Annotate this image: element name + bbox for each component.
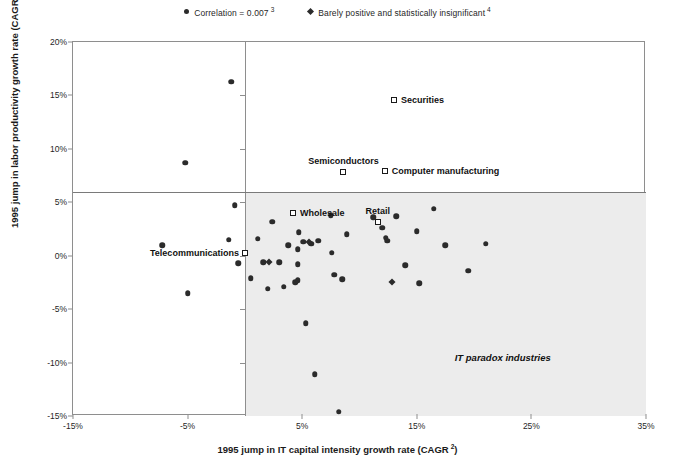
legend-label: Barely positive and statistically insign… — [318, 6, 490, 18]
data-point — [466, 268, 472, 274]
data-point — [248, 275, 254, 281]
data-point — [185, 290, 191, 296]
it-paradox-quadrant-shading — [245, 192, 646, 416]
data-point — [295, 278, 301, 284]
data-point — [384, 238, 390, 244]
x-tick-label: 15% — [408, 421, 425, 431]
data-point — [312, 372, 318, 378]
y-inner-tick-mark — [240, 95, 245, 96]
x-tick-label: 35% — [637, 421, 654, 431]
data-point — [340, 276, 346, 282]
data-point — [416, 281, 422, 287]
zero-y-axis-line — [73, 192, 646, 193]
y-tick-mark — [68, 202, 73, 203]
data-point — [344, 232, 350, 238]
data-point-securities — [391, 97, 397, 103]
data-point-telecommunications — [242, 250, 248, 256]
y-inner-tick-mark — [240, 309, 245, 310]
point-label-semiconductors: Semiconductors — [308, 156, 379, 166]
x-tick-label: 25% — [523, 421, 540, 431]
data-point — [483, 241, 489, 247]
x-tick-mark — [646, 414, 647, 419]
data-point — [336, 409, 342, 415]
x-axis-title: 1995 jump in IT capital intensity growth… — [0, 443, 675, 455]
data-point-computer-manufacturing — [382, 168, 388, 174]
x-tick-label: -5% — [180, 421, 195, 431]
data-point — [443, 242, 449, 248]
legend-footnote-marker: 4 — [487, 6, 491, 13]
y-tick-label: 5% — [55, 197, 67, 207]
x-tick-label: 5% — [296, 421, 308, 431]
y-tick-label: -10% — [47, 358, 67, 368]
data-point — [393, 213, 399, 219]
y-tick-label: -15% — [47, 411, 67, 421]
circle-marker-icon — [184, 9, 189, 14]
y-inner-tick-mark — [240, 149, 245, 150]
data-point — [431, 206, 437, 212]
y-tick-mark — [68, 362, 73, 363]
data-point-retail — [375, 219, 381, 225]
x-tick-mark — [531, 414, 532, 419]
data-point — [295, 262, 301, 268]
x-axis-title-text: 1995 jump in IT capital intensity growth… — [217, 444, 448, 455]
data-point — [183, 160, 189, 166]
data-point — [281, 284, 287, 290]
x-axis-title-tail: ) — [454, 444, 457, 455]
data-point — [277, 259, 283, 265]
legend-footnote-marker: 3 — [271, 6, 275, 13]
data-point-wholesale — [290, 210, 296, 216]
y-tick-mark — [68, 309, 73, 310]
y-axis-title-text: 1995 jump in labor productivity growth r… — [9, 0, 20, 228]
data-point — [403, 263, 409, 269]
y-tick-label: 15% — [50, 90, 67, 100]
data-point — [296, 229, 302, 235]
legend-label: Correlation = 0.0073 — [194, 6, 274, 18]
data-point — [295, 247, 301, 253]
point-label-retail: Retail — [366, 206, 391, 216]
y-tick-mark — [68, 148, 73, 149]
data-point — [303, 320, 309, 326]
point-label-computer-manufacturing: Computer manufacturing — [392, 166, 500, 176]
y-tick-label: 0% — [55, 251, 67, 261]
legend-item-2: Barely positive and statistically insign… — [308, 6, 490, 18]
data-point — [235, 260, 241, 266]
y-tick-mark — [68, 95, 73, 96]
x-tick-mark — [302, 414, 303, 419]
y-inner-tick-mark — [240, 202, 245, 203]
y-tick-label: -5% — [52, 304, 67, 314]
data-point — [380, 225, 386, 231]
x-tick-mark — [416, 414, 417, 419]
x-tick-mark — [73, 414, 74, 419]
plot-area: 20%15%10%5%0%-5%-10%-15% -15%-5%5%15%25%… — [72, 41, 645, 415]
data-point — [228, 79, 234, 85]
y-axis-title: 1995 jump in labor productivity growth r… — [8, 0, 20, 228]
x-tick-mark — [187, 414, 188, 419]
y-inner-tick-mark — [240, 256, 245, 257]
diamond-marker-icon — [307, 8, 314, 15]
point-label-wholesale: Wholesale — [300, 208, 345, 218]
data-point — [329, 250, 335, 256]
data-point — [226, 237, 232, 243]
data-point — [414, 228, 420, 234]
data-point — [265, 286, 271, 292]
y-inner-tick-mark — [240, 363, 245, 364]
chart-legend: Correlation = 0.0073Barely positive and … — [0, 6, 675, 18]
zero-x-axis-line — [245, 42, 246, 416]
data-point-semiconductors — [340, 169, 346, 175]
it-paradox-annotation: IT paradox industries — [455, 352, 551, 363]
data-point — [315, 238, 321, 244]
point-label-telecommunications: Telecommunications — [150, 248, 239, 258]
point-label-securities: Securities — [401, 95, 444, 105]
data-point — [270, 219, 276, 225]
legend-item-1: Correlation = 0.0073 — [184, 6, 274, 18]
data-point — [332, 272, 338, 278]
y-tick-label: 20% — [50, 37, 67, 47]
x-tick-label: -15% — [63, 421, 83, 431]
y-tick-mark — [68, 255, 73, 256]
y-tick-label: 10% — [50, 144, 67, 154]
data-point — [286, 242, 292, 248]
y-tick-mark — [68, 42, 73, 43]
data-point — [255, 236, 261, 242]
data-point — [232, 203, 238, 209]
